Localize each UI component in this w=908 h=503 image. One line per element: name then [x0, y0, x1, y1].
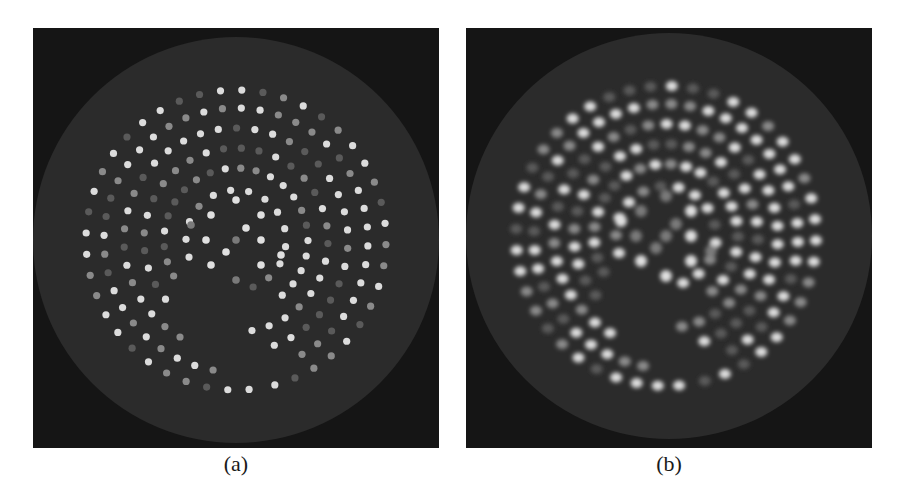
panel-a-image: [33, 28, 439, 448]
phantom-b: [466, 28, 872, 448]
panel-b-image: [466, 28, 872, 448]
phantom-a: [33, 28, 439, 448]
caption-a: (a): [33, 451, 439, 477]
caption-b: (b): [466, 451, 872, 477]
